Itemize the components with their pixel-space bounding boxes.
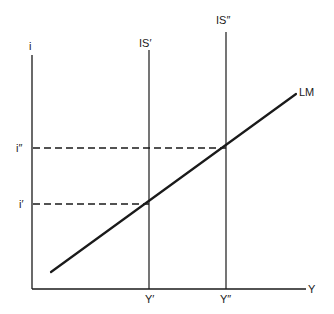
y-axis-label: i xyxy=(29,40,31,52)
is-double-prime-label: IS″ xyxy=(216,14,230,26)
is-prime-label: IS′ xyxy=(139,37,151,49)
y-double-prime-label: Y″ xyxy=(220,293,231,305)
y-prime-label: Y′ xyxy=(145,293,154,305)
i-prime-label: i′ xyxy=(19,198,24,210)
x-axis-label: Y xyxy=(308,283,316,295)
i-double-prime-label: i″ xyxy=(16,142,22,154)
lm-label: LM xyxy=(299,86,314,98)
is-lm-diagram: i Y IS′ IS″ LM i″ i′ Y′ Y″ xyxy=(0,0,334,314)
lm-curve xyxy=(51,94,296,272)
